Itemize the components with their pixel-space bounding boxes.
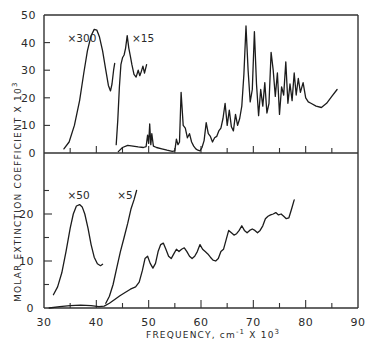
x-tick-label: 30 [37, 316, 52, 329]
x-tick-label: 90 [351, 316, 366, 329]
upper-curve-x15 [116, 36, 146, 145]
upper-curve-x1 [118, 26, 337, 152]
x-axis-title: FREQUENCY, cm-1 X 103 [146, 328, 280, 340]
lower-y-tick-label: 0 [27, 302, 35, 315]
lower-curve-x50 [53, 205, 102, 295]
upper-curve-x300 [64, 29, 115, 148]
x-tick-label: 50 [141, 316, 156, 329]
axis-ticks [44, 43, 332, 308]
spectrum-chart: 010203040503040506070809001020 ×300×15×5… [0, 0, 370, 350]
upper-y-tick-label: 10 [21, 119, 36, 132]
x-tick-label: 60 [194, 316, 209, 329]
upper-y-tick-label: 0 [29, 147, 37, 160]
upper-y-tick-label: 20 [21, 92, 36, 105]
lower-scale-annotation: ×50 [68, 189, 90, 201]
upper-y-tick-label: 30 [21, 64, 36, 77]
x-tick-label: 80 [298, 316, 313, 329]
plot-frame [44, 15, 358, 308]
lower-curve-x1 [49, 200, 294, 308]
upper-y-tick-label: 50 [21, 9, 36, 22]
upper-scale-annotation: ×300 [68, 32, 97, 44]
y-axis-title: MOLAR EXTINCTION COEFFICIENT X 103 [11, 81, 23, 302]
lower-curve-x5 [106, 191, 137, 304]
x-tick-label: 40 [89, 316, 104, 329]
curves [49, 26, 337, 308]
annotations: ×300×15×50×5 [68, 32, 155, 201]
x-tick-label: 70 [246, 316, 261, 329]
tick-labels: 010203040503040506070809001020 [19, 9, 366, 329]
upper-scale-annotation: ×15 [132, 32, 154, 44]
upper-y-tick-label: 40 [21, 37, 36, 50]
lower-scale-annotation: ×5 [117, 189, 132, 201]
